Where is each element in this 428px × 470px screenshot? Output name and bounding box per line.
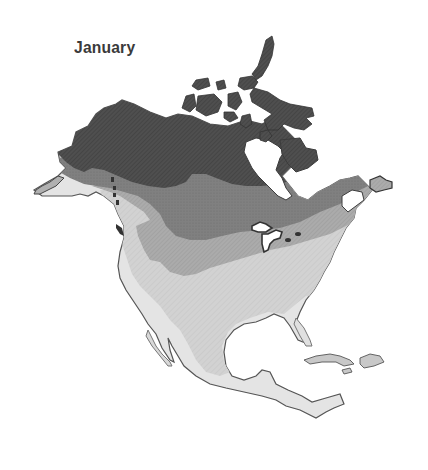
- banks-island: [182, 94, 196, 112]
- arctic-island-1: [216, 80, 226, 90]
- hispaniola: [360, 354, 384, 368]
- jamaica: [342, 368, 352, 374]
- cuba: [304, 354, 354, 366]
- lake-erie: [285, 238, 291, 242]
- newfoundland: [370, 176, 392, 192]
- north-america-map: [0, 0, 428, 470]
- arctic-island-3: [228, 92, 242, 110]
- continent: [34, 80, 380, 418]
- arctic-island-4: [224, 112, 238, 122]
- ellesmere-island: [252, 36, 274, 80]
- arctic-island-2: [192, 78, 210, 90]
- victoria-island: [196, 94, 222, 116]
- lake-ontario: [295, 232, 301, 236]
- caribbean-islands: [304, 354, 384, 374]
